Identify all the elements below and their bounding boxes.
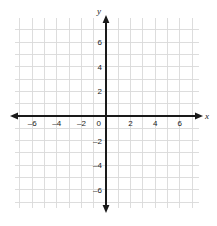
- x-tick-label: –6: [28, 119, 37, 128]
- coordinate-plane-figure: –6–4–20246 –6–4–2246 x y: [0, 0, 217, 226]
- y-tick-label: 2: [98, 87, 103, 96]
- y-tick-label: –2: [93, 137, 102, 146]
- origin-tick-label: 0: [97, 119, 102, 128]
- x-tick-label: –2: [77, 119, 86, 128]
- y-tick-label: 6: [98, 38, 103, 47]
- x-tick-label: 6: [178, 119, 183, 128]
- y-axis-label: y: [96, 6, 101, 16]
- x-tick-label: 2: [128, 119, 133, 128]
- x-axis-label: x: [204, 111, 209, 121]
- graph-canvas: –6–4–20246 –6–4–2246 x y: [0, 0, 217, 226]
- y-tick-label: –6: [93, 186, 102, 195]
- y-tick-label: –4: [93, 161, 102, 170]
- y-tick-label: 4: [98, 63, 103, 72]
- x-tick-label: 4: [153, 119, 158, 128]
- x-tick-label: –4: [52, 119, 61, 128]
